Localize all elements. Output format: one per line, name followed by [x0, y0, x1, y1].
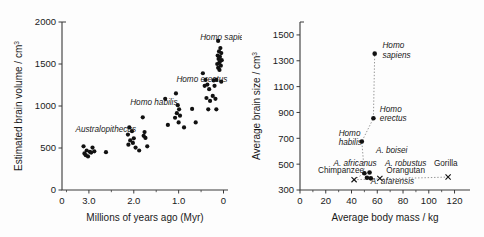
data-point: [166, 123, 170, 127]
left-y-axis-title: Estimated brain volume / cm3: [13, 41, 24, 171]
data-point: [367, 170, 372, 175]
data-point: [137, 148, 141, 152]
x-tick-label: 3.0: [82, 195, 95, 206]
data-point: [177, 120, 181, 124]
left-x-axis-title: Millions of years ago (Myr): [86, 212, 203, 223]
data-point: [212, 84, 216, 88]
x-tick-label: 40: [346, 195, 357, 206]
data-point: [178, 114, 182, 118]
data-point: [133, 145, 137, 149]
data-point: [90, 145, 94, 149]
left-scatter-plot: 05001000150020003.02.01.000 Australopith…: [0, 0, 242, 237]
x-tick-label: 0: [221, 195, 226, 206]
hominid-brain-evolution-figure: 05001000150020003.02.01.000 Australopith…: [0, 0, 484, 237]
data-point: [194, 120, 198, 124]
right-x-axis-title: Average body mass / kg: [331, 212, 438, 223]
data-point: [213, 97, 217, 101]
data-point: [217, 68, 221, 72]
data-point: [145, 144, 149, 148]
data-point: [219, 51, 223, 55]
data-point: [190, 107, 194, 111]
data-point: [141, 115, 145, 119]
y-tick-label: 1000: [35, 100, 56, 111]
data-point-cross: [351, 177, 356, 182]
data-point: [214, 107, 218, 111]
y-tick-label: 500: [40, 142, 56, 153]
x-tick-label: 60: [372, 195, 383, 206]
data-point: [126, 143, 130, 147]
data-point-cross: [446, 174, 451, 179]
data-point: [104, 150, 108, 154]
data-point: [204, 96, 208, 100]
species-label: Gorilla: [434, 159, 458, 168]
y-tick-label: 1300: [273, 55, 294, 66]
data-point: [207, 87, 211, 91]
y-tick-label: 700: [278, 133, 294, 144]
x-tick-label: 2.0: [127, 195, 140, 206]
x-tick-label: 20: [320, 195, 331, 206]
data-point: [131, 141, 135, 145]
y-tick-label: 0: [51, 184, 56, 195]
chart-panel-left: 05001000150020003.02.01.000 Australopith…: [0, 0, 242, 237]
data-point: [174, 91, 178, 95]
chart-panel-right: 300500700900110013001500020406080100120 …: [242, 0, 484, 237]
data-point: [84, 153, 88, 157]
x-tick-label: 0: [297, 195, 302, 206]
y-tick-label: 2000: [35, 16, 56, 27]
y-tick-label: 1100: [274, 81, 294, 92]
data-point: [215, 62, 219, 66]
species-label: Australopithecus: [74, 125, 136, 134]
x-tick-label: 1.0: [172, 195, 185, 206]
species-label: A. afarensis: [370, 177, 414, 186]
y-tick-label: 300: [278, 184, 294, 195]
right-scatter-plot: 300500700900110013001500020406080100120 …: [242, 0, 484, 237]
x-origin-label: 0: [59, 195, 64, 206]
data-point: [173, 116, 177, 120]
left-tick-labels: 05001000150020003.02.01.000: [35, 16, 226, 206]
y-tick-label: 500: [278, 159, 294, 170]
data-point: [142, 130, 146, 134]
species-label: Homo erectus: [176, 75, 227, 84]
data-point: [372, 51, 377, 56]
species-label: Orangutan: [386, 166, 425, 175]
y-tick-label: 1500: [35, 58, 56, 69]
y-tick-label: 900: [278, 107, 294, 118]
data-point: [182, 125, 186, 129]
data-point: [365, 175, 370, 180]
species-label: Chimpanzee: [318, 166, 364, 175]
data-point: [208, 99, 212, 103]
x-tick-label: 100: [421, 195, 437, 206]
species-label: Homoerectus: [380, 105, 407, 123]
data-point: [143, 136, 147, 140]
species-label: Homohabilis: [339, 129, 362, 147]
data-point: [81, 144, 85, 148]
data-point: [132, 136, 136, 140]
x-tick-label: 120: [447, 195, 463, 206]
y-tick-label: 1500: [273, 29, 294, 40]
left-species-annotations: AustralopithecusHomo habilisHomo erectus…: [74, 33, 242, 134]
data-point: [92, 149, 96, 153]
data-point: [206, 107, 210, 111]
species-label: Homo sapiens: [200, 33, 242, 42]
svg-text:Estimated brain volume / cm3: Estimated brain volume / cm3: [13, 41, 24, 171]
data-point: [371, 116, 376, 121]
data-point: [203, 84, 207, 88]
left-tick-marks: [59, 22, 224, 194]
svg-text:Average brain size / cm3: Average brain size / cm3: [251, 52, 262, 160]
right-y-axis-title: Average brain size / cm3: [251, 52, 262, 160]
data-point: [177, 107, 181, 111]
species-label: A. boisei: [375, 146, 408, 155]
x-tick-label: 80: [398, 195, 409, 206]
species-label: Homosapiens: [382, 41, 410, 59]
right-species-annotations: HomosapiensHomoerectusHomohabilisA. bois…: [318, 41, 458, 186]
species-label: Homo habilis: [130, 98, 177, 107]
